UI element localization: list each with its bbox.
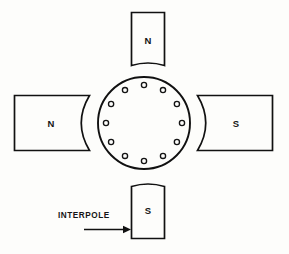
- armature-conductor: [108, 139, 113, 144]
- armature-conductor: [174, 101, 179, 106]
- armature-conductor: [160, 153, 165, 158]
- top-interpole: N: [132, 13, 165, 66]
- armature-conductor: [141, 158, 146, 163]
- armature-conductor: [179, 120, 184, 125]
- armature-conductor: [108, 101, 113, 106]
- right-main-pole-label: S: [233, 118, 240, 129]
- interpole-annotation-label: INTERPOLE: [58, 211, 110, 220]
- armature-conductor: [174, 139, 179, 144]
- diagram-canvas: N N S S INTERPOLE: [0, 0, 289, 254]
- interpole-annotation: INTERPOLE: [58, 211, 131, 233]
- armature: [98, 77, 190, 169]
- top-interpole-label: N: [144, 35, 151, 46]
- armature-conductor: [103, 120, 108, 125]
- left-main-pole-label: N: [47, 118, 54, 129]
- armature-conductor: [160, 87, 165, 92]
- interpole-annotation-arrow-icon: [84, 226, 131, 233]
- right-main-pole: S: [198, 96, 273, 151]
- armature-core-circle: [98, 77, 190, 169]
- armature-conductor: [122, 153, 127, 158]
- left-main-pole: N: [15, 96, 90, 151]
- machine-cross-section-diagram: N N S S INTERPOLE: [0, 0, 289, 254]
- bottom-interpole-label: S: [145, 205, 152, 216]
- arrow-head: [123, 226, 131, 233]
- armature-conductor: [141, 82, 146, 87]
- armature-conductor: [122, 87, 127, 92]
- bottom-interpole: S: [132, 184, 165, 239]
